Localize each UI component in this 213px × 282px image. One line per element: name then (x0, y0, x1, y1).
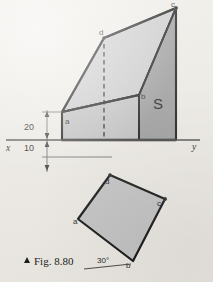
dim-arrow-mid-up (45, 133, 50, 139)
surface-label-s: S (153, 95, 163, 112)
figure-page: c d b a S 20 10 x y (0, 0, 213, 282)
dim-arrow-down (45, 165, 50, 171)
elevation-vertex-label-c: c (171, 0, 175, 9)
plan-square (78, 175, 165, 261)
figure-caption: Fig. 8.80 (24, 255, 74, 267)
plan-vertex-label-b: b (126, 261, 131, 270)
axis-label-y: y (191, 142, 197, 152)
plan-vertex-label-a: a (73, 217, 78, 226)
elevation-vertex-label-a: a (65, 117, 70, 126)
caption-triangle-marker (24, 257, 30, 263)
technical-drawing: c d b a S 20 10 x y (0, 0, 213, 282)
caption-text: Fig. 8.80 (34, 255, 74, 267)
plan-view: d c a b 30° (73, 174, 167, 271)
dimension-value-20: 20 (24, 122, 34, 132)
elevation-view: c d b a S (62, 0, 178, 140)
plan-vertex-label-d: d (105, 177, 109, 186)
plan-vertex-label-c: c (157, 199, 161, 208)
angle-label-30: 30° (97, 256, 109, 265)
dimension-value-10: 10 (24, 143, 34, 153)
elevation-vertex-label-d: d (99, 28, 103, 37)
xy-reference-line: x y (5, 140, 200, 153)
axis-label-x: x (5, 143, 11, 153)
elevation-vertex-label-b: b (141, 92, 146, 101)
dim-arrow-mid-down (45, 141, 50, 147)
